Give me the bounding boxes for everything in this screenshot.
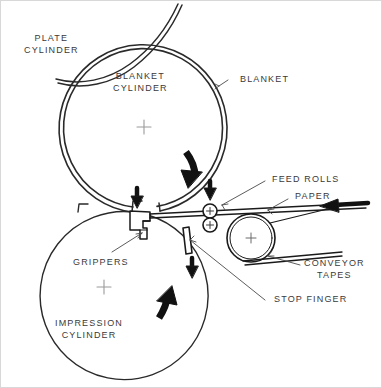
label-paper-line1: PAPER: [295, 191, 331, 203]
feed-roll-upper: [203, 204, 217, 218]
label-conveyor-tapes-line1: CONVEYOR: [304, 258, 365, 270]
label-feed-rolls: FEED ROLLS: [272, 174, 340, 186]
label-stop-finger-line1: STOP FINGER: [274, 294, 347, 306]
conveyor-roller: [227, 214, 275, 262]
label-paper: PAPER: [295, 191, 331, 203]
label-blanket-cylinder-line1: BLANKET: [113, 71, 168, 83]
blanket-cylinder: [59, 45, 227, 212]
label-plate-cylinder-line1: PLATE: [24, 33, 79, 45]
label-conveyor-tapes: CONVEYOR TAPES: [304, 258, 365, 281]
label-grippers: GRIPPERS: [73, 257, 129, 269]
impression-cylinder-center-mark: [97, 280, 111, 294]
leader-feed-rolls: [222, 181, 265, 210]
leader-blanket: [215, 80, 228, 89]
blanket-rotation-arrow: [181, 152, 202, 188]
leader-grippers: [112, 233, 142, 252]
label-blanket-cylinder: BLANKET CYLINDER: [113, 71, 168, 94]
impression-rotation-arrow: [157, 286, 177, 318]
label-conveyor-tapes-line2: TAPES: [304, 270, 365, 282]
label-stop-finger: STOP FINGER: [274, 294, 347, 306]
label-plate-cylinder-line2: CYLINDER: [24, 45, 79, 57]
label-plate-cylinder: PLATE CYLINDER: [24, 33, 79, 56]
label-blanket-cylinder-line2: CYLINDER: [113, 83, 168, 95]
feed-roll-lower: [203, 218, 217, 232]
label-impression-cylinder: IMPRESSION CYLINDER: [55, 318, 123, 341]
label-impression-cylinder-line2: CYLINDER: [55, 330, 123, 342]
label-feed-rolls-line1: FEED ROLLS: [272, 174, 340, 186]
label-blanket-line1: BLANKET: [240, 74, 289, 86]
label-blanket: BLANKET: [240, 74, 289, 86]
blanket-cylinder-center-mark: [137, 120, 151, 134]
figure-canvas: PLATE CYLINDER BLANKET CYLINDER BLANKET …: [0, 0, 382, 388]
label-impression-cylinder-line1: IMPRESSION: [55, 318, 123, 330]
label-grippers-line1: GRIPPERS: [73, 257, 129, 269]
stop-finger-down-arrow: [186, 258, 198, 278]
